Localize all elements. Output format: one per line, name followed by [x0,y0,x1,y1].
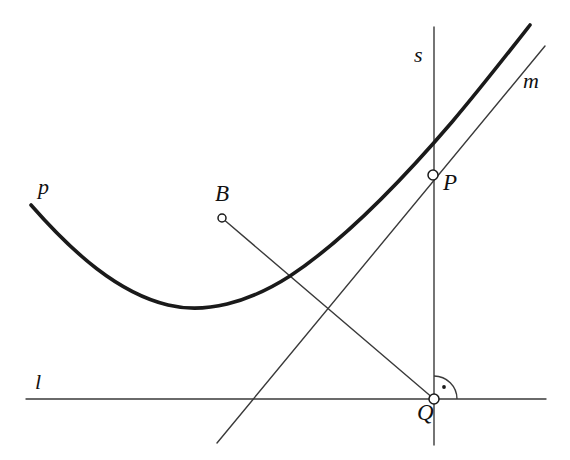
point-marker-P [428,170,438,180]
svg-layer [26,25,546,445]
right-angle-at-Q-dot [442,385,446,389]
line-m [217,46,545,443]
label-point-p: P [443,171,457,194]
curve-p [31,25,530,308]
label-point-b: B [215,182,229,205]
label-line-m: m [523,70,539,92]
label-parabola-p: p [38,176,49,198]
geometry-diagram: p l s m P Q B [0,0,570,460]
line-BQ [222,218,434,399]
point-marker-B [218,214,226,222]
label-line-s: s [414,44,423,66]
geometry-canvas [0,0,570,460]
label-point-q: Q [417,401,434,424]
label-line-l: l [35,371,41,393]
